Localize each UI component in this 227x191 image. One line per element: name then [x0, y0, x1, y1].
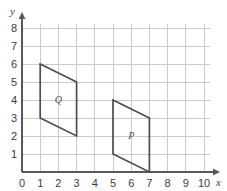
- y-axis-tick-label: 3: [3, 113, 17, 124]
- x-axis-tick-label: 0: [14, 178, 30, 189]
- x-axis-tick-label: 9: [178, 178, 194, 189]
- data-layer: [22, 10, 212, 172]
- y-axis-tick-label: 7: [3, 41, 17, 52]
- coordinate-plane-figure: QP01234567891012345678xy: [0, 0, 227, 191]
- y-axis-tick-label: 8: [3, 23, 17, 34]
- y-axis-tick-label: 6: [3, 59, 17, 70]
- x-axis-tick-label: 4: [87, 178, 103, 189]
- x-axis-tick-label: 8: [160, 178, 176, 189]
- x-axis-label: x: [216, 177, 221, 188]
- parallelogram-p-label: P: [128, 131, 134, 141]
- x-axis-tick-label: 3: [69, 178, 85, 189]
- x-axis-tick-label: 6: [123, 178, 139, 189]
- parallelogram-q-label: Q: [55, 95, 62, 105]
- y-axis-tick-label: 4: [3, 95, 17, 106]
- x-axis-tick-label: 7: [141, 178, 157, 189]
- x-axis-tick-label: 10: [196, 178, 212, 189]
- x-axis-arrow-icon: [213, 169, 220, 176]
- y-axis-tick-label: 2: [3, 131, 17, 142]
- plot-area: [22, 10, 212, 172]
- x-axis-tick-label: 2: [50, 178, 66, 189]
- y-axis-tick-label: 1: [3, 149, 17, 160]
- x-axis-tick-label: 1: [32, 178, 48, 189]
- x-axis-tick-label: 5: [105, 178, 121, 189]
- y-axis-tick-label: 5: [3, 77, 17, 88]
- y-axis-label: y: [10, 6, 15, 17]
